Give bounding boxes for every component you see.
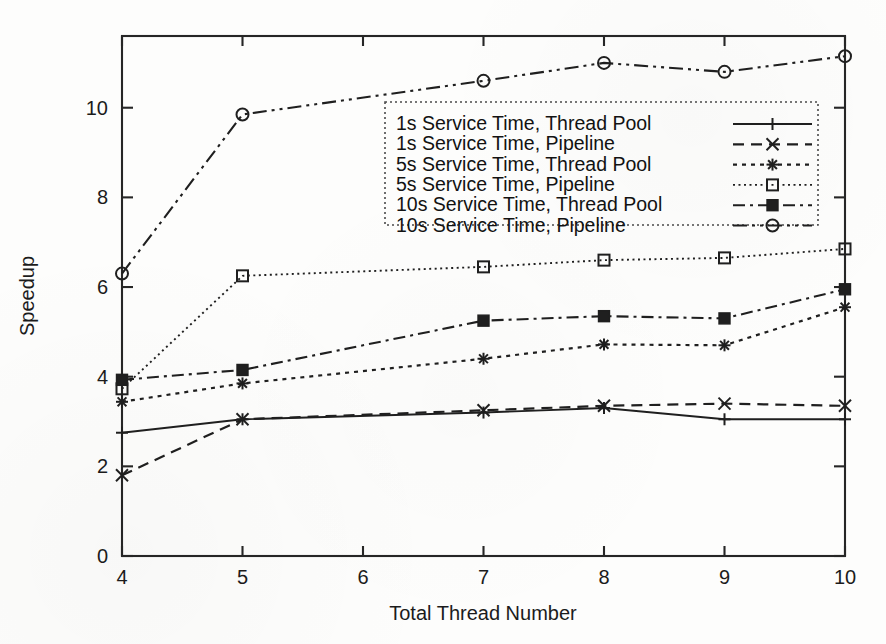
legend-label-0: 1s Service Time, Thread Pool	[396, 112, 651, 134]
y-tick-label: 6	[97, 276, 108, 298]
x-tick-label: 6	[357, 566, 368, 588]
chart-figure: 45678910 0246810 1s Service Time, Thread…	[0, 0, 886, 644]
x-tick-label: 7	[478, 566, 489, 588]
legend-sample-marker-4	[767, 200, 778, 211]
x-tick-label: 5	[237, 566, 248, 588]
legend-label-3: 5s Service Time, Pipeline	[396, 173, 615, 195]
y-tick-label: 0	[97, 545, 108, 567]
legend-entries: 1s Service Time, Thread Pool1s Service T…	[396, 112, 812, 236]
series-4	[117, 284, 851, 386]
series-line	[122, 289, 845, 380]
legend-label-5: 10s Service Time, Pipeline	[396, 214, 626, 236]
speedup-line-chart: 45678910 0246810 1s Service Time, Thread…	[0, 0, 886, 644]
legend-sample-marker-2	[767, 159, 779, 171]
y-tick-label: 2	[97, 455, 108, 477]
x-tick-label: 4	[116, 566, 127, 588]
x-tick-label: 10	[834, 566, 856, 588]
series-0	[116, 402, 851, 439]
legend-label-4: 10s Service Time, Thread Pool	[396, 193, 662, 215]
x-tick-label: 8	[598, 566, 609, 588]
x-axis-title: Total Thread Number	[389, 602, 577, 624]
series-1	[116, 398, 851, 482]
legend-sample-marker-0	[767, 118, 779, 130]
y-tick-label: 10	[86, 97, 108, 119]
legend-label-1: 1s Service Time, Pipeline	[396, 132, 615, 154]
legend-label-2: 5s Service Time, Thread Pool	[396, 153, 651, 175]
y-tick-label: 8	[97, 186, 108, 208]
y-axis-title: Speedup	[16, 256, 38, 336]
y-tick-label: 4	[97, 366, 108, 388]
x-tick-label: 9	[719, 566, 730, 588]
